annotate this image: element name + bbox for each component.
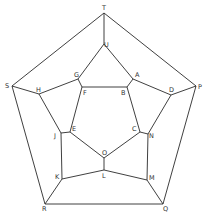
vertex-label-f: F	[83, 89, 87, 97]
vertex-label-s: S	[5, 82, 9, 90]
vertex-label-d: D	[169, 86, 174, 94]
edge-g-f	[78, 79, 82, 87]
vertex-label-k: K	[55, 173, 60, 181]
edge-g-h	[39, 79, 78, 94]
edge-h-j	[39, 94, 61, 133]
vertex-label-o: O	[102, 149, 107, 157]
edge-k-l	[62, 170, 104, 179]
vertex-label-c: C	[132, 125, 137, 133]
edge-a-b	[127, 79, 133, 87]
vertex-label-n: N	[149, 132, 154, 140]
dodecahedron-graph-diagram: TUSPGAHDFBJECNOLKMRQ	[0, 0, 208, 221]
edge-n-m	[147, 134, 148, 180]
edge-p-q	[163, 86, 196, 204]
edge-d-n	[148, 95, 171, 134]
vertex-label-e: E	[72, 125, 76, 133]
edge-c-o	[104, 132, 140, 158]
edge-t-p	[104, 13, 196, 86]
edge-q-m	[147, 180, 163, 204]
vertex-label-l: L	[102, 172, 106, 180]
vertex-label-h: H	[36, 86, 41, 94]
edge-e-o	[70, 132, 104, 158]
graph-svg: TUSPGAHDFBJECNOLKMRQ	[0, 0, 208, 221]
vertex-label-u: U	[104, 41, 109, 49]
vertex-label-b: B	[121, 89, 125, 97]
vertex-label-t: T	[101, 4, 106, 12]
vertex-label-p: P	[198, 83, 202, 91]
vertex-label-q: Q	[163, 205, 168, 213]
edge-p-d	[171, 86, 196, 95]
vertex-label-r: R	[42, 205, 47, 213]
edge-m-l	[104, 170, 147, 180]
vertex-label-g: G	[74, 71, 79, 79]
edge-r-k	[45, 179, 62, 204]
vertex-label-a: A	[135, 71, 140, 79]
edge-j-k	[61, 133, 62, 179]
edge-c-n	[140, 132, 148, 134]
vertex-label-m: M	[149, 174, 155, 182]
edge-t-s	[12, 13, 104, 86]
edge-s-r	[12, 86, 45, 204]
edge-a-d	[133, 79, 171, 95]
edge-u-g	[78, 44, 104, 79]
edge-j-e	[61, 132, 70, 133]
edge-u-a	[104, 44, 133, 79]
vertex-labels: TUSPGAHDFBJECNOLKMRQ	[5, 4, 202, 213]
vertex-label-j: J	[53, 132, 56, 140]
edge-s-h	[12, 86, 39, 94]
